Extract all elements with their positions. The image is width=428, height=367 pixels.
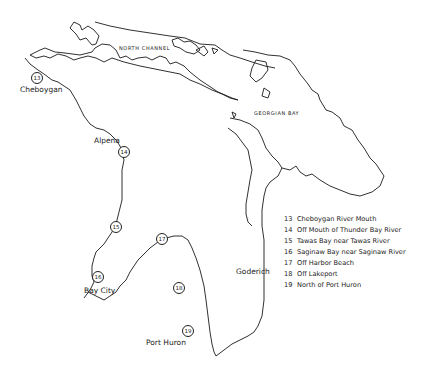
station-marker-14: 14 — [118, 146, 130, 158]
legend-row: 15Tawas Bay near Tawas River — [284, 237, 406, 248]
legend-number: 19 — [284, 281, 294, 292]
legend-row: 17Off Harbor Beach — [284, 259, 406, 270]
city-label-bay-city: Bay City — [84, 286, 115, 295]
legend-text: Tawas Bay near Tawas River — [297, 237, 390, 248]
legend-text: Cheboygan River Mouth — [297, 215, 376, 226]
legend-number: 14 — [284, 226, 294, 237]
station-marker-18: 18 — [173, 282, 185, 294]
lake-huron-outline — [0, 0, 428, 367]
legend-text: Off Harbor Beach — [297, 259, 354, 270]
station-marker-16: 16 — [92, 271, 104, 283]
legend-number: 17 — [284, 259, 294, 270]
city-label-cheboygan: Cheboygan — [20, 85, 63, 94]
station-marker-15: 15 — [110, 221, 122, 233]
legend-row: 16Saginaw Bay near Saginaw River — [284, 248, 406, 259]
legend-number: 15 — [284, 237, 294, 248]
legend-text: Off Mouth of Thunder Bay River — [297, 226, 401, 237]
city-label-goderich: Goderich — [236, 267, 270, 276]
station-legend: 13Cheboygan River Mouth 14Off Mouth of T… — [284, 215, 406, 292]
legend-row: 14Off Mouth of Thunder Bay River — [284, 226, 406, 237]
city-label-alpena: Alpena — [94, 136, 120, 145]
station-marker-19: 19 — [182, 325, 194, 337]
city-label-port-huron: Port Huron — [146, 338, 186, 347]
ontario-shore — [216, 168, 282, 356]
bruce-peninsula — [230, 118, 384, 196]
legend-row: 18Off Lakeport — [284, 270, 406, 281]
legend-text: Off Lakeport — [297, 270, 338, 281]
legend-number: 18 — [284, 270, 294, 281]
north-channel-label: NORTH CHANNEL — [119, 45, 170, 51]
georgian-bay-label: GEORGIAN BAY — [254, 110, 299, 116]
station-marker-17: 17 — [156, 233, 168, 245]
station-marker-13: 13 — [31, 72, 43, 84]
western-shore — [25, 58, 124, 298]
legend-row: 13Cheboygan River Mouth — [284, 215, 406, 226]
legend-text: North of Port Huron — [297, 281, 361, 292]
north-shore — [70, 22, 99, 45]
legend-number: 16 — [284, 248, 294, 259]
legend-number: 13 — [284, 215, 294, 226]
legend-row: 19North of Port Huron — [284, 281, 406, 292]
legend-text: Saginaw Bay near Saginaw River — [297, 248, 406, 259]
